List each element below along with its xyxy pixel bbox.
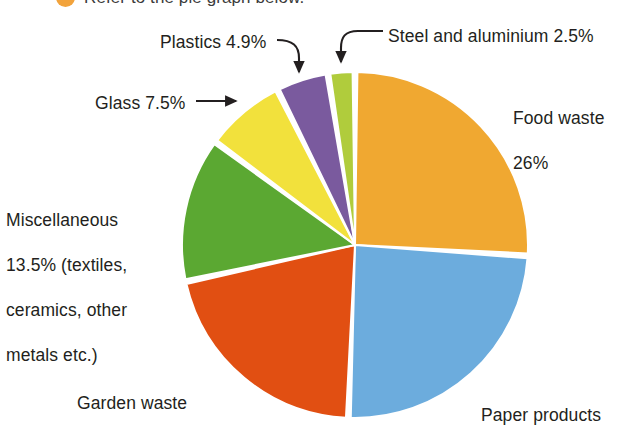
slice-label-plastics: Plastics 4.9%	[160, 31, 266, 54]
slice-label-miscellaneous-line1: Miscellaneous	[6, 209, 176, 232]
slice-label-food-waste-value: 26%	[513, 152, 604, 175]
slice-label-miscellaneous: Miscellaneous 13.5% (textiles, ceramics,…	[6, 186, 176, 389]
slice-label-glass: Glass 7.5%	[95, 92, 185, 115]
slice-label-miscellaneous-line3: ceramics, other	[6, 299, 176, 322]
slice-label-miscellaneous-line4: metals etc.)	[6, 344, 176, 367]
pie-chart-figure: Refer to the pie graph below. Food waste…	[0, 0, 638, 434]
pie-slice-food-waste	[355, 72, 528, 253]
slice-label-garden-waste-name: Garden waste	[77, 392, 187, 415]
slice-label-food-waste: Food waste 26%	[513, 84, 604, 197]
slice-label-paper-products: Paper products 24.6%	[481, 381, 601, 434]
slice-label-food-waste-name: Food waste	[513, 107, 604, 130]
slice-label-miscellaneous-line2: 13.5% (textiles,	[6, 254, 176, 277]
slice-label-steel-and-aluminium: Steel and aluminium 2.5%	[388, 25, 594, 48]
slice-label-paper-products-name: Paper products	[481, 404, 601, 427]
